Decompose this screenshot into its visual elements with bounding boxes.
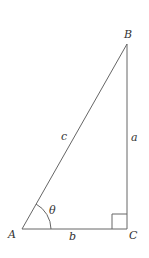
vertex-label-b: B (123, 28, 132, 41)
angle-label-theta: θ (49, 204, 56, 217)
vertex-label-a: A (7, 228, 16, 241)
side-label-c: c (61, 130, 67, 143)
right-triangle-diagram: B c a θ A b C (0, 0, 149, 258)
side-label-a: a (131, 131, 138, 144)
side-label-b: b (69, 230, 76, 243)
right-angle-marker (112, 214, 127, 229)
vertex-label-c: C (129, 229, 138, 242)
side-c-hypotenuse (22, 44, 127, 229)
